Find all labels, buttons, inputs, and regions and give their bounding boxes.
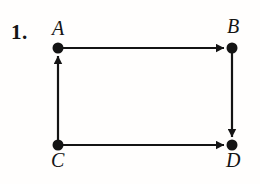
node-label-c: C xyxy=(51,150,64,170)
edge-layer xyxy=(58,48,232,145)
directed-graph-diagram xyxy=(0,0,260,184)
node-layer xyxy=(53,43,238,151)
node-a xyxy=(53,43,64,54)
figure-container: 1. A xyxy=(0,0,260,184)
node-label-b: B xyxy=(227,16,239,36)
node-label-a: A xyxy=(52,18,64,38)
node-b xyxy=(227,43,238,54)
node-label-d: D xyxy=(226,150,240,170)
